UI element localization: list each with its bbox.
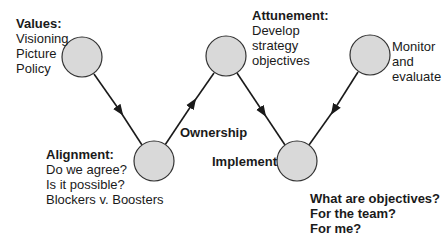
values-line: Visioning (16, 31, 69, 46)
attunement-line: Develop (252, 23, 329, 38)
monitor-line: and (392, 54, 441, 69)
question-line: For the team? (310, 206, 440, 221)
implement-label: Implement (212, 154, 277, 169)
attunement-label: Attunement: Develop strategy objectives (252, 8, 329, 68)
node-attunement-circle (206, 36, 246, 76)
monitor-label: Monitor and evaluate (392, 39, 441, 84)
values-line: Picture (16, 46, 69, 61)
alignment-line: Blockers v. Boosters (46, 192, 164, 207)
alignment-label: Alignment: Do we agree? Is it possible? … (46, 147, 164, 207)
attunement-line: objectives (252, 53, 329, 68)
monitor-line: evaluate (392, 69, 441, 84)
alignment-line: Do we agree? (46, 162, 164, 177)
node-monitor-circle (350, 35, 390, 75)
questions-label: What are objectives? For the team? For m… (310, 191, 440, 236)
question-line: For me? (310, 221, 440, 236)
values-title: Values: (16, 16, 69, 31)
edge-monitor-to-implement (309, 72, 358, 145)
values-label: Values: Visioning Picture Policy (16, 16, 69, 76)
alignment-line: Is it possible? (46, 177, 164, 192)
question-line: What are objectives? (310, 191, 440, 206)
alignment-title: Alignment: (46, 147, 164, 162)
attunement-line: strategy (252, 38, 329, 53)
ownership-label: Ownership (180, 125, 247, 140)
edge-values-to-alignment (94, 74, 142, 145)
attunement-title: Attunement: (252, 8, 329, 23)
monitor-line: Monitor (392, 39, 441, 54)
values-line: Policy (16, 61, 69, 76)
node-implement-circle (277, 141, 317, 181)
